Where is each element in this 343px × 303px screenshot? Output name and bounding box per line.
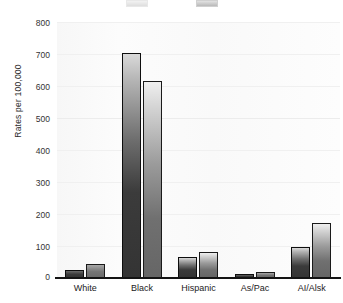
bar-group-black bbox=[114, 22, 171, 278]
x-tick-label-aialsk: AI/Alsk bbox=[283, 283, 340, 293]
x-axis-tick-labels: White Black Hispanic As/Pac AI/Alsk bbox=[57, 283, 340, 303]
bar-black-series-1 bbox=[122, 53, 141, 278]
chart-legend: Series 1 Series 2 bbox=[0, 0, 343, 7]
bar-aialsk-series-1 bbox=[291, 247, 310, 278]
x-tick-label-hispanic: Hispanic bbox=[170, 283, 227, 293]
x-tick-label-black: Black bbox=[114, 283, 171, 293]
bar-hispanic-series-2 bbox=[199, 252, 218, 278]
legend-item-series-1: Series 1 bbox=[126, 0, 148, 7]
bar-group-aspac bbox=[227, 22, 284, 278]
x-tick-label-white: White bbox=[57, 283, 114, 293]
bar-aialsk-series-2 bbox=[312, 223, 331, 278]
y-tick-label-200: 200 bbox=[24, 211, 50, 220]
y-tick-label-800: 800 bbox=[24, 19, 50, 28]
y-tick-label-700: 700 bbox=[24, 51, 50, 60]
bar-chart: Series 1 Series 2 Rates per 100,000 800 … bbox=[0, 0, 343, 303]
y-tick-label-600: 600 bbox=[24, 83, 50, 92]
bar-black-series-2 bbox=[143, 81, 162, 278]
bar-group-aialsk bbox=[283, 22, 340, 278]
legend-swatch-series-2 bbox=[196, 0, 218, 7]
y-tick-label-500: 500 bbox=[24, 115, 50, 124]
x-axis-line bbox=[55, 277, 341, 279]
legend-item-series-2: Series 2 bbox=[196, 0, 218, 7]
y-axis-tick-labels: 800 700 600 500 400 300 200 100 0 bbox=[22, 0, 50, 303]
x-tick-label-aspac: As/Pac bbox=[227, 283, 284, 293]
bar-white-series-2 bbox=[86, 264, 105, 278]
bar-group-white bbox=[57, 22, 114, 278]
y-tick-label-0: 0 bbox=[24, 273, 50, 282]
bar-group-hispanic bbox=[170, 22, 227, 278]
y-tick-label-100: 100 bbox=[24, 243, 50, 252]
bars-layer bbox=[57, 22, 340, 278]
legend-swatch-series-1 bbox=[126, 0, 148, 7]
y-tick-label-400: 400 bbox=[24, 147, 50, 156]
bar-hispanic-series-1 bbox=[178, 257, 197, 278]
y-tick-label-300: 300 bbox=[24, 179, 50, 188]
